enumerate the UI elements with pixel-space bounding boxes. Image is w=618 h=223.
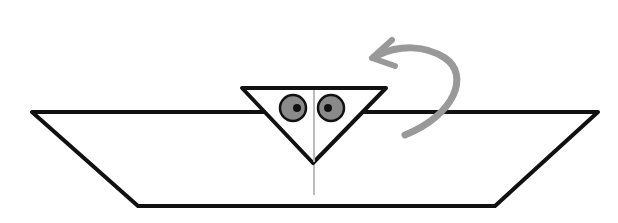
right-eye-icon <box>318 95 344 121</box>
origami-diagram <box>0 0 618 223</box>
left-eye-icon <box>280 95 306 121</box>
